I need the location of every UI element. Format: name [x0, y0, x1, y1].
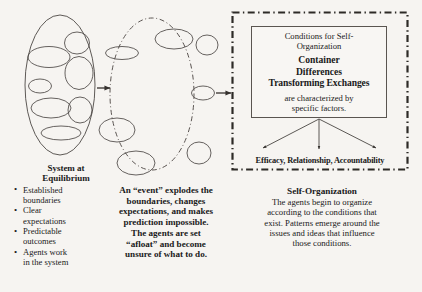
factors-label: Efficacy, Relationship, Accountability [234, 156, 406, 165]
condition-transforming-exchanges: Transforming Exchanges [269, 77, 370, 88]
right-caption-line-0: The agents begin to organize [272, 197, 372, 207]
condition-differences: Differences [296, 66, 342, 77]
conditions-heading-line2: Organization [297, 41, 342, 51]
bullet-2-line2: outcomes [23, 236, 56, 246]
arrow-conditions-to-factors-right [319, 119, 376, 148]
middle-caption-line-4: The agents are set [131, 228, 201, 238]
right-caption-block: Self-Organization The agents begin to or… [228, 186, 416, 249]
middle-caption-line-5: “afloat” and become [126, 239, 206, 249]
conditions-heading-line1: Conditions for Self- [285, 31, 354, 41]
equilibrium-agent-ellipses [28, 32, 93, 140]
left-caption-title: System at Equilibrium [14, 163, 114, 184]
middle-caption-line-3: prediction impossible. [123, 217, 208, 227]
bullet-3-line1: Agents work [23, 247, 67, 257]
middle-caption-line-1: boundaries, changes [127, 196, 206, 206]
conditions-tail-line1: are characterized by [284, 93, 353, 103]
event-agent-ellipses [99, 29, 218, 175]
middle-caption-block: An “event” explodes the boundaries, chan… [96, 185, 236, 260]
diagram-canvas: Conditions for Self- Organization Contai… [0, 0, 422, 292]
bullet-2-line1: Predictable [23, 226, 62, 236]
conditions-bold-list: Container Differences Transforming Excha… [252, 54, 386, 89]
bullet-0-line2: boundaries [23, 195, 61, 205]
bullet-0-line1: Established [23, 185, 63, 195]
right-caption-line-1: according to the conditions that [267, 207, 377, 217]
condition-container: Container [298, 54, 340, 65]
bullet-1-line2: expectations [23, 216, 66, 226]
inner-conditions-box: Conditions for Self- Organization Contai… [251, 26, 387, 118]
arrow-conditions-to-factors-left [263, 119, 319, 148]
middle-caption-line-0: An “event” explodes the [119, 185, 213, 195]
conditions-tail-line2: specific factors. [292, 103, 346, 113]
conditions-heading: Conditions for Self- Organization [252, 31, 386, 51]
right-caption-line-3: issues and ideas that influence [269, 228, 374, 238]
middle-caption-line-2: expectations, and makes [119, 206, 213, 216]
right-caption-line-4: those conditions. [293, 238, 352, 248]
left-caption-title-line1: System at [47, 163, 84, 173]
middle-caption-line-6: unsure of what to do. [125, 249, 207, 259]
left-caption-title-line2: Equilibrium [42, 173, 90, 183]
conditions-tail-text: are characterized by specific factors. [252, 93, 386, 113]
bullet-3-line2: in the system [23, 257, 68, 267]
event-boundary-ellipse [110, 18, 194, 170]
right-caption-title: Self-Organization [228, 186, 416, 197]
bullet-1-line1: Clear [23, 205, 42, 215]
right-caption-line-2: exist. Patterns emerge around the [264, 218, 379, 228]
equilibrium-outer-ellipse [25, 15, 95, 155]
